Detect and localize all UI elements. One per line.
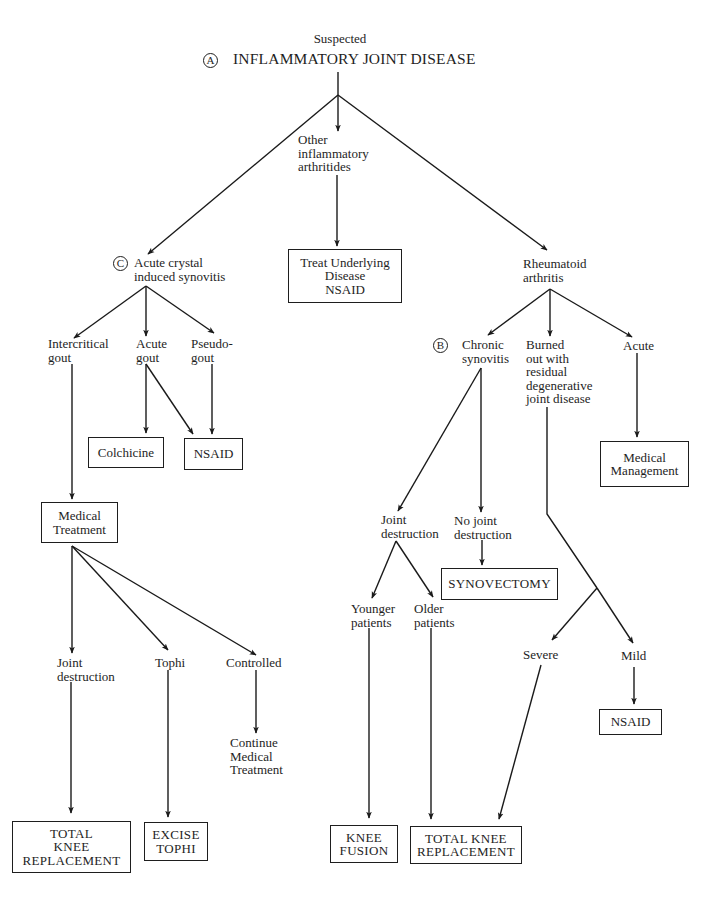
node-acute-crystal-synovitis: Acute crystal induced synovitis bbox=[134, 256, 225, 283]
node-continue-medical-treatment: Continue Medical Treatment bbox=[230, 736, 283, 777]
marker-c: C bbox=[113, 256, 128, 271]
node-joint-destruction-gout: Joint destruction bbox=[57, 656, 115, 683]
node-no-joint-destruction: No joint destruction bbox=[454, 514, 512, 541]
box-excise-tophi: EXCISE TOPHI bbox=[144, 822, 208, 861]
node-severe: Severe bbox=[523, 648, 558, 662]
node-pseudogout: Pseudo- gout bbox=[191, 337, 233, 364]
node-acute-gout: Acute gout bbox=[136, 337, 167, 364]
node-chronic-synovitis: Chronic synovitis bbox=[462, 338, 509, 365]
box-medical-management: Medical Management bbox=[600, 441, 689, 487]
node-rheumatoid-arthritis: Rheumatoid arthritis bbox=[523, 257, 587, 284]
box-knee-fusion: KNEE FUSION bbox=[330, 825, 398, 863]
box-treat-underlying-disease: Treat Underlying Disease NSAID bbox=[288, 249, 402, 303]
title-inflammatory-joint-disease: INFLAMMATORY JOINT DISEASE bbox=[233, 52, 476, 66]
box-total-knee-replacement-gout: TOTAL KNEE REPLACEMENT bbox=[12, 821, 131, 873]
marker-a: A bbox=[203, 53, 218, 68]
node-intercritical-gout: Intercritical gout bbox=[48, 337, 109, 364]
node-mild: Mild bbox=[621, 649, 646, 663]
box-colchicine: Colchicine bbox=[88, 437, 164, 468]
node-younger-patients: Younger patients bbox=[351, 602, 395, 629]
box-synovectomy: SYNOVECTOMY bbox=[441, 568, 558, 600]
title-suspected: Suspected bbox=[310, 32, 370, 46]
node-other-arthritides: Other inflammatory arthritides bbox=[298, 133, 369, 174]
node-burned-out: Burned out with residual degenerative jo… bbox=[526, 338, 592, 406]
marker-b: B bbox=[433, 338, 448, 353]
box-nsaid-mild: NSAID bbox=[599, 709, 662, 735]
node-older-patients: Older patients bbox=[414, 602, 454, 629]
box-nsaid-gout: NSAID bbox=[184, 438, 243, 470]
box-medical-treatment: Medical Treatment bbox=[41, 502, 118, 543]
node-tophi: Tophi bbox=[155, 656, 185, 670]
node-joint-destruction-ra: Joint destruction bbox=[381, 513, 439, 540]
node-controlled: Controlled bbox=[226, 656, 282, 670]
box-total-knee-replacement-ra: TOTAL KNEE REPLACEMENT bbox=[410, 826, 522, 864]
node-ra-acute: Acute bbox=[623, 339, 654, 353]
